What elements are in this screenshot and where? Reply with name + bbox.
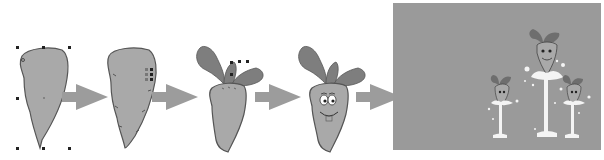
selection-handle[interactable] bbox=[16, 147, 19, 150]
arrow-right-icon bbox=[62, 84, 108, 114]
selection-handle[interactable] bbox=[42, 46, 45, 49]
right-carrot bbox=[563, 75, 585, 138]
selection-handle[interactable] bbox=[230, 73, 233, 76]
left-carrot bbox=[491, 75, 513, 138]
center-carrot bbox=[529, 29, 563, 137]
selection-handle[interactable] bbox=[16, 97, 19, 100]
carrot-workflow-diagram bbox=[0, 0, 604, 160]
selection-handle[interactable] bbox=[68, 46, 71, 49]
selection-handle[interactable] bbox=[42, 147, 45, 150]
selection-handle[interactable] bbox=[230, 61, 233, 64]
step-5-final-scene bbox=[393, 3, 601, 150]
carrot-fountain-scene-icon bbox=[393, 3, 601, 150]
selection-handle[interactable] bbox=[238, 60, 241, 63]
selection-handle[interactable] bbox=[68, 147, 71, 150]
selection-handle[interactable] bbox=[16, 46, 19, 49]
selection-handle[interactable] bbox=[246, 60, 249, 63]
